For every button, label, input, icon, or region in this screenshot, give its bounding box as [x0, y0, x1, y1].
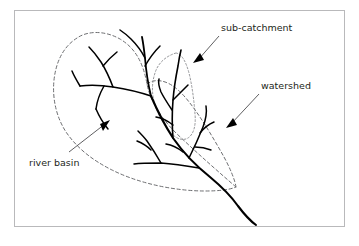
figure-border [15, 11, 345, 227]
diagram-canvas: sub-catchment watershed river basin [0, 0, 359, 246]
label-river-basin: river basin [29, 157, 79, 168]
label-watershed: watershed [261, 80, 311, 91]
label-sub-catchment: sub-catchment [221, 22, 293, 33]
